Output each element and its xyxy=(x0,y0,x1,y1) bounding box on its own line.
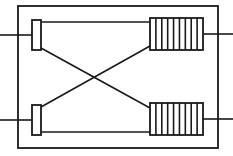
component-upper-left-bar xyxy=(32,20,41,50)
component-lower-left-bar xyxy=(32,105,41,135)
upper-coil-body xyxy=(150,18,203,50)
component-upper-right-coil xyxy=(150,18,203,50)
lower-coil-body xyxy=(150,103,203,135)
schematic-svg xyxy=(0,0,233,156)
schematic-canvas xyxy=(0,0,233,156)
component-lower-right-coil xyxy=(150,103,203,135)
